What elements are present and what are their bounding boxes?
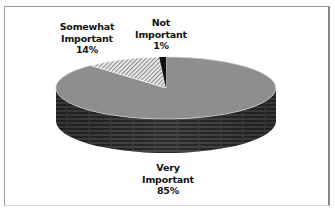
label-line: Not	[131, 17, 191, 29]
label-line: Important	[131, 29, 191, 41]
label-percent: 85%	[128, 185, 208, 197]
label-percent: 1%	[131, 40, 191, 52]
label-line: Important	[52, 33, 122, 45]
label-line: Important	[128, 174, 208, 186]
label-line: Very	[128, 162, 208, 174]
label-not-important: Not Important 1%	[131, 17, 191, 52]
label-very-important: Very Important 85%	[128, 162, 208, 197]
label-somewhat-important: Somewhat Important 14%	[52, 21, 122, 56]
label-line: Somewhat	[52, 21, 122, 33]
label-percent: 14%	[52, 44, 122, 56]
